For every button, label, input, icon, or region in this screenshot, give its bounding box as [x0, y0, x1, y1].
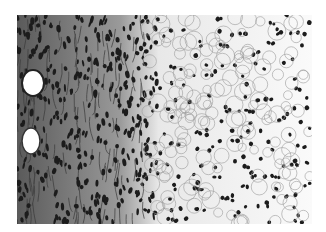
vessel-upper [22, 70, 44, 96]
vessel-lower [22, 128, 40, 154]
micrograph-image [17, 15, 312, 224]
tissue-texture [17, 15, 312, 224]
